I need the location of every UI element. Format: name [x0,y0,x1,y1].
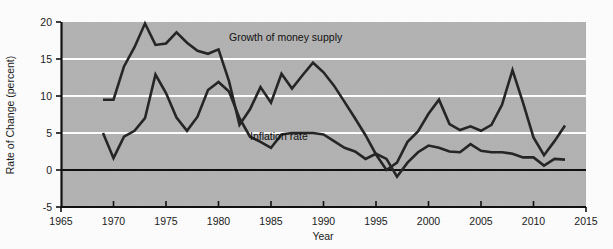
x-axis-title: Year [312,230,334,242]
chart-figure: -505101520 19651970197519801985199019952… [0,0,613,249]
y-axis-title: Rate of Change (percent) [4,56,16,174]
y-tick-label-15: 15 [40,53,52,65]
y-tick-label-20: 20 [40,16,52,28]
money-supply-inflation-line-chart: -505101520 19651970197519801985199019952… [0,0,613,249]
x-tick-label-1975: 1975 [154,215,178,227]
y-tick-label-5: 5 [46,127,52,139]
x-tick-label-1995: 1995 [364,215,388,227]
x-tick-label-2010: 2010 [522,215,546,227]
y-tick-label--5: -5 [43,201,52,213]
plot-area-background [61,22,586,207]
x-tick-label-2015: 2015 [574,215,598,227]
x-tick-label-1965: 1965 [49,215,73,227]
y-axis-ticks: -505101520 [40,16,61,213]
x-tick-label-2005: 2005 [469,215,493,227]
inflation-series-label: Inflation rate [250,130,308,142]
x-tick-label-1980: 1980 [207,215,231,227]
x-tick-label-2000: 2000 [417,215,441,227]
money-supply-series-label: Growth of money supply [229,31,343,43]
x-tick-label-1970: 1970 [102,215,126,227]
y-tick-label-10: 10 [40,90,52,102]
y-tick-label-0: 0 [46,164,52,176]
x-tick-label-1985: 1985 [259,215,283,227]
x-tick-label-1990: 1990 [312,215,336,227]
